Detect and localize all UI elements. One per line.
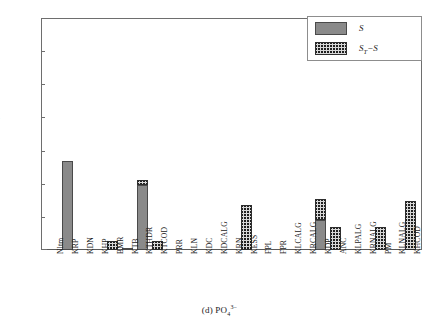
x-tick-label-kln: KLN (190, 238, 199, 254)
x-tick-label-krnalg: KRNALG (369, 221, 378, 254)
x-tick-label-fpr: FPR (279, 240, 288, 254)
x-tick-label-kdn: KDN (86, 237, 95, 254)
caption-subscript: 4 (227, 311, 230, 317)
x-axis-labels: NltmKRPKDNKHPBMRKTBKTHDRKTCODPRRKLNKDCKD… (41, 252, 422, 304)
legend-label-s: S (359, 22, 364, 35)
x-tick-label-pm: PM (384, 243, 393, 254)
figure-panel-d: 00.10.20.30.40.50.60.7 NltmKRPKDNKHPBMRK… (0, 0, 439, 325)
x-tick-label-kdp: KDP (324, 238, 333, 254)
legend-label-st-suffix: −S (367, 43, 378, 53)
figure-caption: (d) PO43− (0, 304, 439, 317)
caption-superscript: 3− (230, 304, 237, 310)
x-tick-label-kdc: KDC (205, 237, 214, 254)
x-tick-label-ktb: KTB (131, 238, 140, 254)
x-tick-label-fpl: FPL (264, 240, 273, 254)
caption-prefix: (d) PO (202, 305, 227, 315)
x-tick-label-kdcalg: KDCALG (220, 221, 229, 254)
x-tick-label-anc: ANC (339, 237, 348, 254)
x-tick-label-krp: KRP (71, 239, 80, 254)
x-tick-label-ktcod: KTCOD (160, 227, 169, 254)
legend-swatch-st-minus-s (315, 42, 347, 55)
x-tick-label-kthdr: KTHDR (145, 227, 154, 254)
legend-label-st-minus-s: ST−S (359, 42, 378, 55)
x-tick-label-klnalg: KLNALG (398, 222, 407, 254)
x-tick-label-nltm: Nltm (56, 238, 65, 254)
x-tick-label-khp: KHP (101, 238, 110, 254)
x-tick-label-klpalg: KLPALG (354, 224, 363, 254)
x-tick-label-krn: KRN (235, 237, 244, 254)
bar-segment-st-minus-s (315, 199, 326, 221)
legend-swatch-s (315, 22, 347, 35)
legend: S ST−S (307, 16, 422, 61)
x-tick-label-kess: KESS (250, 235, 259, 254)
x-tick-label-klcalg: KLCALG (294, 222, 303, 254)
x-tick-label-krcalg: KRCALG (309, 222, 318, 254)
y-axis: 00.10.20.30.40.50.60.7 (0, 0, 41, 252)
x-tick-label-prr: PRR (175, 239, 184, 254)
x-tick-label-bmr: BMR (116, 237, 125, 254)
bar-segment-s (62, 161, 73, 250)
bar-segment-st-minus-s (137, 180, 148, 185)
x-tick-label-khcod: KHCOD (413, 226, 422, 254)
